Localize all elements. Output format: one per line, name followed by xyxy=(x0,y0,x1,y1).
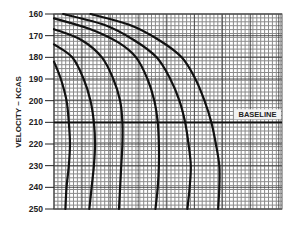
y-tick-label: 240 xyxy=(29,182,43,192)
baseline-label: BASELINE xyxy=(239,110,277,119)
y-axis-label: VELOCITY ~ KCAS xyxy=(14,76,23,148)
y-tick-label: 160 xyxy=(29,9,43,19)
chart: 160170180190200210220230240250 BASELINE … xyxy=(0,0,291,228)
y-tick-label: 180 xyxy=(29,52,43,62)
y-tick-label: 170 xyxy=(29,31,43,41)
y-tick-label: 230 xyxy=(29,161,43,171)
y-tick-label: 210 xyxy=(29,117,43,127)
y-tick-label: 220 xyxy=(29,139,43,149)
y-axis: 160170180190200210220230240250 xyxy=(29,9,54,214)
y-tick-label: 250 xyxy=(29,204,43,214)
y-tick-label: 200 xyxy=(29,96,43,106)
y-tick-label: 190 xyxy=(29,74,43,84)
